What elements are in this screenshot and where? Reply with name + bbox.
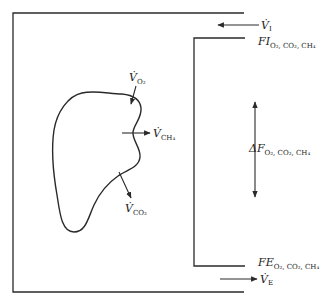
f-inlet-label: FIO₂, CO₂, CH₄ bbox=[257, 35, 316, 50]
v-co2-label: V̇CO₂ bbox=[125, 202, 147, 217]
f-outlet-label: FEO₂, CO₂, CH₄ bbox=[257, 256, 319, 271]
v-o2-label: V̇O₂ bbox=[129, 71, 146, 86]
v-i-label: V̇I bbox=[261, 19, 272, 33]
respiration-chamber-diagram: V̇O₂ V̇CH₄ V̇CO₂ V̇I FIO₂, CO₂, CH₄ bbox=[0, 0, 329, 303]
outer-chamber bbox=[13, 13, 244, 292]
delta-f-label: ΔFO₂, CO₂, CH₄ bbox=[248, 142, 310, 157]
co2-release-arrow: V̇CO₂ bbox=[119, 172, 147, 217]
v-ch4-label: V̇CH₄ bbox=[153, 127, 175, 142]
inflow-arrow: V̇I bbox=[218, 19, 272, 33]
inner-flow-channel bbox=[194, 38, 245, 266]
delta-f-arrow: ΔFO₂, CO₂, CH₄ bbox=[248, 102, 310, 197]
outflow-arrow: V̇E bbox=[220, 273, 273, 287]
ch4-release-arrow: V̇CH₄ bbox=[122, 127, 175, 142]
v-e-label: V̇E bbox=[260, 273, 273, 287]
